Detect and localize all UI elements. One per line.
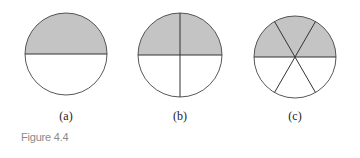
shaded-region <box>25 13 107 54</box>
circle-c <box>254 16 336 98</box>
label-c: (c) <box>288 109 301 123</box>
label-a: (a) <box>59 109 72 123</box>
circle-a <box>25 13 107 95</box>
figure-caption: Figure 4.4 <box>21 131 69 143</box>
circle-b <box>138 13 222 97</box>
label-b: (b) <box>173 109 187 123</box>
shaded-region <box>254 16 336 57</box>
